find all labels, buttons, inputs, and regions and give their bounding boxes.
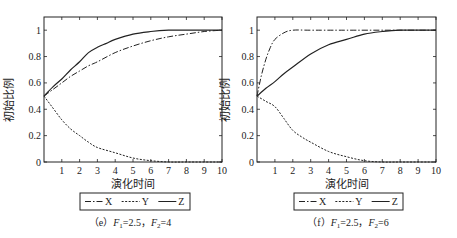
legend-label-y: Y — [355, 196, 362, 207]
series-z-line — [257, 30, 436, 96]
legend: XYZ — [294, 193, 403, 210]
x-tick-label: 8 — [184, 165, 189, 176]
x-tick-label: 10 — [217, 165, 227, 176]
x-tick-label: 7 — [166, 165, 171, 176]
x-tick-label: 6 — [362, 165, 367, 176]
x-tick-label: 8 — [398, 165, 403, 176]
x-tick-label: 5 — [344, 165, 349, 176]
y-tick-label: 0 — [36, 157, 41, 168]
x-tick-label: 10 — [431, 165, 441, 176]
chart-caption: （f）F1=2.5，F2=6 — [307, 217, 388, 230]
x-tick-label: 5 — [131, 165, 136, 176]
y-tick-label: 0.6 — [29, 77, 42, 88]
legend-label-z: Z — [178, 196, 184, 207]
x-tick-label: 4 — [113, 165, 118, 176]
chart-e: 1234567891000.20.40.60.81演化时间初始比例XYZ（e）F… — [2, 17, 227, 230]
figure: 1234567891000.20.40.60.81演化时间初始比例XYZ（e）F… — [0, 0, 457, 238]
x-tick-label: 3 — [95, 165, 100, 176]
y-tick-label: 0.8 — [242, 51, 255, 62]
y-axis-ticks: 00.20.40.60.81 — [29, 25, 223, 168]
legend-label-z: Z — [392, 196, 398, 207]
x-axis-label: 演化时间 — [111, 177, 155, 191]
plot-frame — [44, 17, 222, 162]
x-tick-label: 2 — [77, 165, 82, 176]
chart-caption: （e）F1=2.5，F2=4 — [89, 217, 171, 230]
series-y-line — [257, 96, 436, 162]
x-tick-label: 1 — [272, 165, 277, 176]
y-tick-label: 1 — [249, 25, 254, 36]
legend-label-x: X — [319, 196, 327, 207]
y-tick-label: 0.6 — [242, 77, 255, 88]
x-tick-label: 9 — [202, 165, 207, 176]
y-axis-label: 初始比例 — [218, 78, 232, 122]
x-tick-label: 4 — [326, 165, 331, 176]
x-tick-label: 7 — [380, 165, 385, 176]
x-tick-label: 1 — [59, 165, 64, 176]
y-tick-label: 0.2 — [242, 130, 255, 141]
series-y-line — [44, 96, 222, 162]
y-tick-label: 1 — [36, 25, 41, 36]
plot-frame — [257, 17, 436, 162]
y-tick-label: 0 — [249, 157, 254, 168]
y-tick-label: 0.2 — [29, 130, 42, 141]
x-tick-label: 2 — [290, 165, 295, 176]
legend-label-x: X — [105, 196, 113, 207]
y-axis-label: 初始比例 — [2, 78, 16, 122]
series-lines — [257, 30, 436, 162]
x-tick-label: 3 — [308, 165, 313, 176]
series-x-line — [44, 30, 222, 96]
x-axis-ticks: 12345678910 — [272, 17, 441, 176]
legend: XYZ — [80, 193, 190, 210]
legend-label-y: Y — [142, 196, 149, 207]
series-z-line — [44, 30, 222, 96]
x-axis-ticks: 12345678910 — [59, 17, 227, 176]
y-tick-label: 0.4 — [242, 104, 255, 115]
x-tick-label: 9 — [416, 165, 421, 176]
x-tick-label: 6 — [148, 165, 153, 176]
y-tick-label: 0.8 — [29, 51, 42, 62]
y-tick-label: 0.4 — [29, 104, 42, 115]
series-lines — [44, 30, 222, 162]
x-axis-label: 演化时间 — [325, 177, 369, 191]
chart-f: 1234567891000.20.40.60.81演化时间初始比例XYZ（f）F… — [218, 17, 441, 230]
